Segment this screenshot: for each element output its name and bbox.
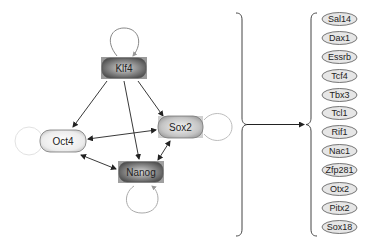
svg-text:Nac1: Nac1 [329,146,350,156]
target-item: Zfp281 [322,164,357,177]
target-gene-list: Sal14 Dax1 Essrb Tcf4 Tbx3 Tcl1 Rif1 Nac… [322,13,357,234]
svg-text:Tbx3: Tbx3 [329,90,349,100]
svg-text:Tcf4: Tcf4 [331,71,348,81]
klf4-self-loop [110,28,138,56]
target-item: Essrb [322,51,357,64]
node-sox2: Sox2 [158,116,203,138]
node-label: Oct4 [52,136,74,147]
node-klf4: Klf4 [101,57,147,79]
edge-oct4-nanog [81,155,116,169]
svg-text:Zfp281: Zfp281 [325,165,353,175]
target-item: Sal14 [322,13,357,26]
svg-text:Otx2: Otx2 [330,184,349,194]
edge-sox2-nanog [158,141,170,160]
edges [73,81,170,169]
edge-klf4-oct4 [73,81,107,127]
svg-text:Sox18: Sox18 [327,222,353,232]
opening-brace [306,13,317,236]
node-label: Klf4 [115,63,133,74]
target-item: Rif1 [322,126,357,139]
closing-brace [236,13,247,236]
svg-text:Sal14: Sal14 [328,14,351,24]
target-item: Nac1 [322,145,357,158]
node-label: Sox2 [169,122,192,133]
nanog-self-loop [126,186,158,213]
svg-text:Essrb: Essrb [328,52,351,62]
node-oct4: Oct4 [40,130,86,152]
edge-klf4-sox2 [138,81,163,116]
target-item: Sox18 [322,221,357,234]
edge-klf4-nanog [124,81,139,159]
node-label: Nanog [126,167,155,178]
target-item: Tbx3 [322,89,357,102]
node-nanog: Nanog [118,161,164,183]
svg-text:Rif1: Rif1 [331,127,347,137]
target-item: Tcl1 [322,107,357,120]
target-item: Otx2 [322,183,357,196]
target-item: Tcf4 [322,70,357,83]
target-item: Dax1 [322,32,357,45]
target-item: Pitx2 [322,202,357,215]
svg-text:Tcl1: Tcl1 [331,108,347,118]
sox2-self-loop [204,114,232,141]
svg-text:Pitx2: Pitx2 [329,203,349,213]
regulatory-network-diagram: Klf4 Oct4 Sox2 Nanog Sal14 Dax1 Essrb Tc… [0,0,377,248]
oct4-self-loop [15,127,43,155]
svg-text:Dax1: Dax1 [329,33,350,43]
edge-oct4-sox2 [88,130,156,139]
